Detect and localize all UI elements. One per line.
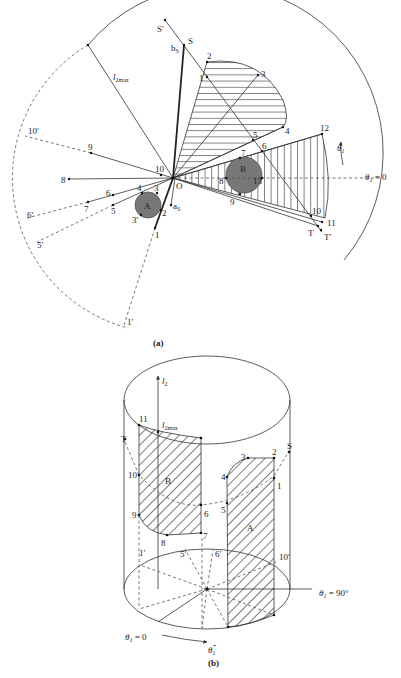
label-theta-zero: θ1 = 0 [365, 172, 387, 183]
label-13: 13 [253, 176, 263, 186]
label-region-b: B [165, 476, 171, 486]
label-2: 2 [162, 208, 167, 218]
label-theta-0: θ1 = 0 [125, 632, 147, 643]
label-5: 5 [111, 206, 116, 216]
ray-8 [69, 178, 173, 179]
figure-b: l2 l2max 11 T 10 B 9 6 7 8 3 2 4 S 1 5 A… [121, 356, 349, 668]
label-7: 7 [84, 204, 89, 214]
label-1: 1 [155, 230, 160, 240]
label-6: 6 [106, 188, 111, 198]
proj-5 [37, 205, 113, 242]
label-10: 10 [155, 164, 165, 174]
label-bs: bS [171, 43, 179, 54]
theta-plus-arrow-b [162, 635, 207, 642]
label-a: A [144, 201, 151, 211]
label-5-b2: 5 [221, 505, 226, 515]
label-t-b: T [121, 434, 127, 444]
label-6-prime-b: 6′ [215, 549, 222, 559]
figure-a: S′ S bS l2max 2 1 3 4 5 6 12 7 B 8 13 9 … [12, 0, 387, 348]
label-l2max-b: l2max [162, 420, 178, 431]
label-s-b: S [287, 441, 292, 451]
workspace-diagram: S′ S bS l2max 2 1 3 4 5 6 12 7 B 8 13 9 … [0, 0, 401, 678]
theta-0-axis [158, 589, 207, 622]
label-4-a: 4 [285, 126, 290, 136]
label-t-prime: T′ [324, 232, 331, 242]
label-b: B [240, 164, 246, 174]
label-6-b2: 6 [204, 509, 209, 519]
label-11-b: 11 [139, 414, 148, 424]
label-s: S [188, 36, 193, 46]
label-t: T [308, 228, 314, 238]
caption-a: (a) [153, 338, 164, 348]
label-8-b: 8 [219, 176, 224, 186]
label-o: O [176, 181, 183, 191]
label-5-prime-b: 5′ [180, 549, 187, 559]
label-as: aS [173, 201, 180, 212]
label-l2-axis: l2 [162, 376, 168, 387]
label-10-b2: 10 [128, 470, 138, 480]
proj-6 [27, 202, 88, 218]
ray-7 [88, 178, 173, 202]
label-3-a: 3 [261, 69, 266, 79]
label-10-b: 10 [312, 206, 322, 216]
label-7-b2: 7 [203, 531, 208, 541]
label-3: 3 [154, 183, 159, 193]
label-8: 8 [61, 175, 66, 185]
label-9-b2: 9 [132, 510, 137, 520]
label-5-prime: 5′ [37, 240, 44, 250]
label-l2max: l2max [113, 72, 129, 83]
label-1-prime: 1′ [127, 317, 134, 327]
proj-10 [25, 136, 91, 153]
caption-b: (b) [208, 658, 219, 668]
reach-circle-dashed [12, 45, 128, 328]
region-a [227, 458, 274, 627]
label-theta-90: θ1 = 90° [319, 588, 349, 599]
label-10-prime-b: 10′ [279, 552, 290, 562]
l2max-ray [88, 45, 173, 178]
label-theta-plus-b: θ1+ [208, 643, 216, 656]
label-11: 11 [327, 218, 336, 228]
label-region-a: A [247, 523, 254, 533]
label-2-b2: 2 [272, 447, 277, 457]
label-3-b2: 3 [241, 452, 246, 462]
label-s-prime: S′ [157, 24, 164, 34]
label-12: 12 [320, 123, 329, 133]
label-7-b: 7 [241, 148, 246, 158]
label-4-b2: 4 [221, 472, 226, 482]
label-9-b: 9 [230, 197, 235, 207]
label-9: 9 [88, 142, 93, 152]
obstacle-b [226, 157, 262, 193]
label-1-b2: 1 [277, 481, 282, 491]
label-1-prime-b: 1′ [139, 548, 146, 558]
label-8-b2: 8 [161, 538, 166, 548]
label-1-a: 1 [199, 73, 204, 83]
label-2-a: 2 [207, 51, 212, 61]
label-3-prime: 3′ [132, 215, 139, 225]
label-6-a: 6 [262, 141, 267, 151]
label-5-a: 5 [253, 130, 258, 140]
label-4: 4 [137, 183, 142, 193]
label-10-prime: 10′ [28, 126, 39, 136]
proj-1 [124, 228, 155, 325]
label-6-prime: 6′ [27, 210, 34, 220]
